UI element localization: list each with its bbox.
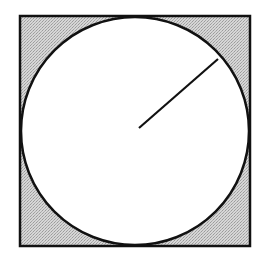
- diagram-canvas: [0, 0, 260, 254]
- inscribed-circle: [21, 17, 249, 245]
- inscribed-circle-diagram: [0, 0, 260, 254]
